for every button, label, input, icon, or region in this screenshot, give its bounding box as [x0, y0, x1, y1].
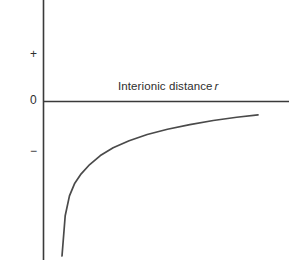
x-axis-label-text: Interionic distance [118, 80, 213, 92]
coulombic-attraction-curve [62, 115, 258, 256]
plot-canvas [0, 0, 289, 260]
x-axis-label-symbol: r [213, 80, 219, 92]
y-tick-label-zero: 0 [30, 94, 37, 106]
potential-energy-figure: Potential energy + 0 − Interionic distan… [0, 0, 289, 260]
x-axis-label: Interionic distancer [118, 81, 219, 93]
y-tick-label-positive: + [30, 48, 37, 60]
data-curve-group [62, 115, 258, 256]
y-tick-label-negative: − [30, 145, 37, 157]
